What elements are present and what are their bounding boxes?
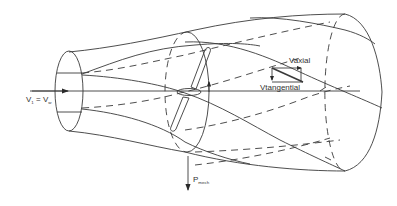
stream-tube-outline	[69, 14, 345, 171]
inlet-velocity-label: V1 = Vw	[26, 96, 51, 105]
outlet-ticks	[320, 87, 331, 160]
rotor-blades	[171, 48, 211, 132]
mechanical-power-label: Pmech	[193, 176, 209, 185]
rotor-disk	[165, 32, 209, 152]
inlet-streamlines	[57, 73, 82, 112]
outlet-ellipse	[325, 14, 382, 171]
mech-subscript: mech	[198, 180, 209, 185]
tangential-velocity-label: Vtangential	[260, 84, 300, 92]
velocity-vector-triangle	[272, 68, 303, 82]
axial-velocity-label: Vaxial	[289, 57, 310, 65]
helical-wake-lines	[82, 18, 382, 171]
vw-subscript: w	[48, 100, 51, 105]
equals-sign: =	[34, 95, 43, 104]
